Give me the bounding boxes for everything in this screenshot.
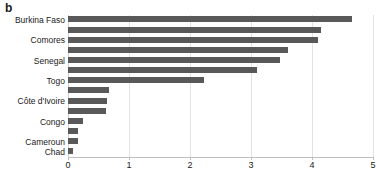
x-tick-mark: [312, 157, 313, 160]
x-tick-label: 2: [175, 159, 205, 171]
x-tick-label: 3: [236, 159, 266, 171]
bar: [68, 67, 257, 73]
bar-row: [68, 147, 373, 157]
bar-row: [68, 35, 373, 45]
category-label: Comores: [0, 35, 65, 45]
x-tick-mark: [68, 157, 69, 160]
bar-row: [68, 66, 373, 76]
x-tick-mark: [251, 157, 252, 160]
bar: [68, 128, 78, 134]
panel-letter: b: [5, 1, 12, 15]
bar-row: [68, 25, 373, 35]
category-label: Togo: [0, 76, 65, 86]
bar-row: [68, 86, 373, 96]
bar: [68, 148, 73, 154]
bar-row: [68, 106, 373, 116]
bar: [68, 27, 321, 33]
x-axis-tick-labels: 012345: [0, 159, 377, 179]
category-label: Burkina Faso: [0, 15, 65, 25]
bar: [68, 108, 106, 114]
category-label: Senegal: [0, 56, 65, 66]
bar-row: [68, 76, 373, 86]
x-tick-mark: [129, 157, 130, 160]
bar-row: [68, 15, 373, 25]
bar-row: [68, 56, 373, 66]
bar-row: [68, 45, 373, 55]
x-tick-mark: [373, 157, 374, 160]
x-tick-label: 1: [114, 159, 144, 171]
bar-chart-figure: b Burkina FasoComoresSenegalTogoCôte d'I…: [0, 0, 377, 182]
x-tick-label: 4: [297, 159, 327, 171]
bar: [68, 37, 318, 43]
bar-row: [68, 137, 373, 147]
bar: [68, 16, 352, 22]
bar-series: [68, 15, 373, 157]
bar: [68, 118, 83, 124]
x-tick-label: 5: [358, 159, 377, 171]
category-label: Côte d'Ivoire: [0, 96, 65, 106]
plot-area: [68, 15, 373, 157]
bar: [68, 77, 204, 83]
bar-row: [68, 116, 373, 126]
category-label: Cameroun: [0, 137, 65, 147]
bar: [68, 87, 109, 93]
category-axis-labels: Burkina FasoComoresSenegalTogoCôte d'Ivo…: [0, 15, 65, 157]
bar-row: [68, 127, 373, 137]
bar: [68, 138, 78, 144]
category-label: Chad: [0, 147, 65, 157]
bar-row: [68, 96, 373, 106]
bar: [68, 57, 280, 63]
x-tick-label: 0: [53, 159, 83, 171]
category-label: Congo: [0, 117, 65, 127]
gridline-5: [373, 15, 374, 157]
x-tick-mark: [190, 157, 191, 160]
x-axis-line: [68, 157, 373, 158]
bar: [68, 47, 288, 53]
bar: [68, 98, 107, 104]
